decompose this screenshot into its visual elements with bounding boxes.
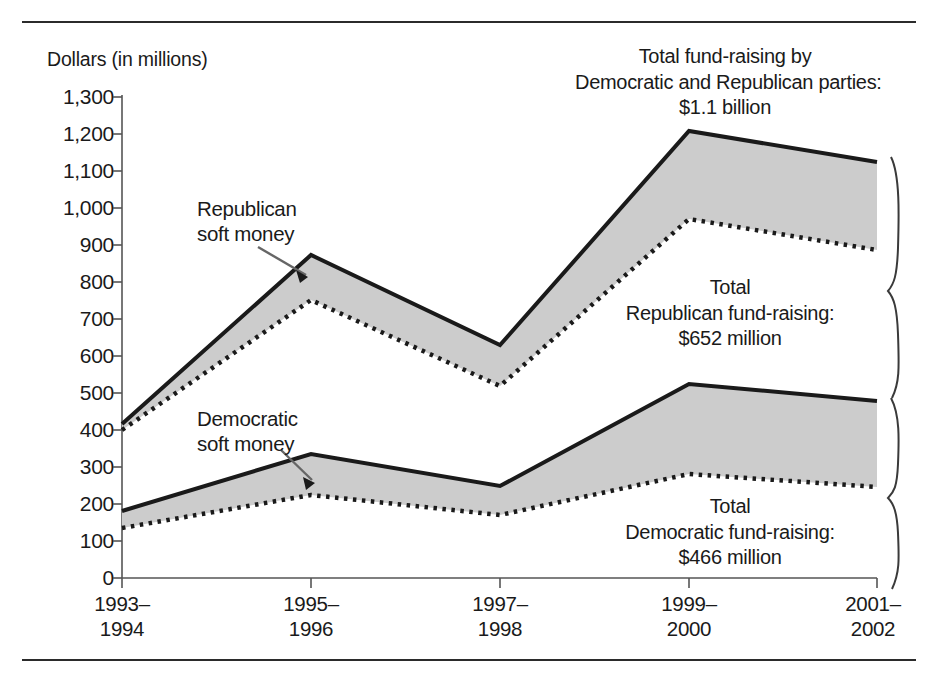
total-republican-line3: $652 million — [600, 326, 860, 352]
x-tick-line2: 2000 — [661, 616, 717, 641]
x-tick-line2: 1994 — [94, 616, 150, 641]
x-tick-label-1993-1994: 1993– 1994 — [94, 591, 150, 641]
y-axis-ticks — [113, 97, 122, 578]
x-tick-label-1995-1996: 1995– 1996 — [283, 591, 339, 641]
x-tick-label-1999-2000: 1999– 2000 — [661, 591, 717, 641]
x-tick-line2: 1998 — [472, 616, 528, 641]
x-tick-line1: 1999– — [661, 591, 717, 616]
total-fundraising-annotation: Total fund-raising by Democratic and Rep… — [575, 44, 875, 121]
total-republican-annotation: Total Republican fund-raising: $652 mill… — [600, 275, 860, 352]
x-tick-label-2001-2002: 2001– 2002 — [845, 591, 901, 641]
x-tick-line1: 1995– — [283, 591, 339, 616]
total-democratic-line3: $466 million — [600, 545, 860, 571]
total-democratic-annotation: Total Democratic fund-raising: $466 mill… — [600, 494, 860, 571]
republican-soft-money-label: Republican soft money — [197, 196, 297, 246]
democratic-total-brace — [888, 398, 899, 589]
total-democratic-line1: Total — [600, 494, 860, 520]
republican-total-brace — [888, 157, 899, 398]
x-tick-line1: 1997– — [472, 591, 528, 616]
total-republican-line2: Republican fund-raising: — [600, 301, 860, 327]
republican-soft-money-label-line2: soft money — [197, 221, 297, 246]
total-republican-line1: Total — [600, 275, 860, 301]
x-tick-line2: 2002 — [845, 616, 901, 641]
x-tick-line1: 2001– — [845, 591, 901, 616]
democratic-soft-money-label-line1: Democratic — [197, 406, 298, 431]
democratic-soft-money-label-line2: soft money — [197, 431, 298, 456]
figure-container: Dollars (in millions) 1,300 1,200 1,100 … — [0, 0, 938, 673]
total-fundraising-line1: Total fund-raising by — [575, 44, 875, 70]
democratic-soft-money-label: Democratic soft money — [197, 406, 298, 456]
total-fundraising-line3: $1.1 billion — [575, 95, 875, 121]
x-axis-ticks — [122, 578, 877, 588]
x-tick-line1: 1993– — [94, 591, 150, 616]
total-democratic-line2: Democratic fund-raising: — [600, 520, 860, 546]
x-tick-line2: 1996 — [283, 616, 339, 641]
total-fundraising-line2: Democratic and Republican parties: — [575, 70, 875, 96]
x-tick-label-1997-1998: 1997– 1998 — [472, 591, 528, 641]
republican-soft-money-label-line1: Republican — [197, 196, 297, 221]
